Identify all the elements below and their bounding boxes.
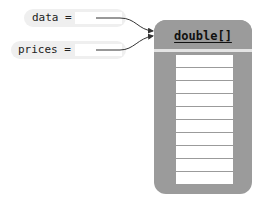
array-cells: [176, 55, 233, 184]
array-cell: [176, 120, 233, 133]
array-cell: [176, 81, 233, 94]
array-type-label: double[]: [174, 29, 232, 43]
array-cell: [176, 159, 233, 172]
array-cell: [176, 68, 233, 81]
arrow-prices-to-array: [96, 36, 153, 50]
arrow-data-to-array: [96, 18, 153, 31]
array-cell: [176, 107, 233, 120]
array-cell: [176, 94, 233, 107]
array-cell: [176, 133, 233, 146]
array-cell: [176, 146, 233, 159]
header-divider: [154, 49, 252, 52]
array-object-header: double[]: [154, 20, 252, 49]
array-cell: [176, 172, 233, 184]
array-cell: [176, 55, 233, 68]
array-object: double[]: [154, 20, 252, 194]
